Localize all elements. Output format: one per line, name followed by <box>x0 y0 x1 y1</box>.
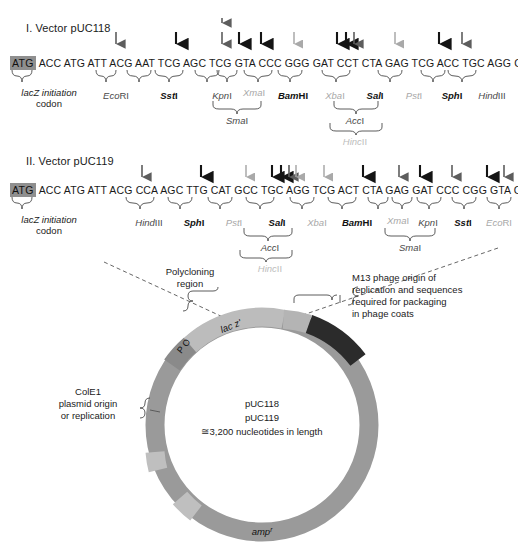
plasmid-center-text: pUC118 pUC119 ≅3,200 nucleotides in leng… <box>201 397 322 438</box>
ring-label-ampr: ampr <box>252 526 273 538</box>
plasmid-name-119: pUC119 <box>201 411 322 425</box>
puc-vector-figure: I. Vector pUC118 <box>0 0 518 555</box>
cole1-origin-label: ColE1 plasmid origin or replication <box>31 386 146 422</box>
polycloning-region-label: Polycloning region <box>140 266 240 290</box>
plasmid-name-118: pUC118 <box>201 397 322 411</box>
m13-brace <box>294 295 340 303</box>
plasmid-size: ≅3,200 nucleotides in length <box>201 425 322 439</box>
m13-origin-label: M13 phage origin of replication and sequ… <box>352 272 517 320</box>
polycloning-brace <box>183 287 218 311</box>
